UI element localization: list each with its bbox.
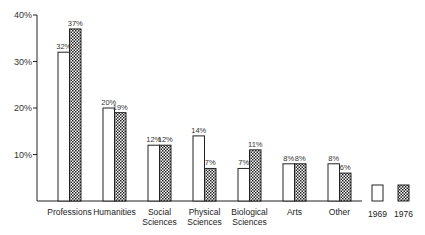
- bar-1969: [103, 108, 115, 201]
- y-tick-label: 40%: [14, 10, 32, 20]
- bar-1976: [70, 29, 82, 201]
- bar-value-label: 11%: [248, 140, 263, 149]
- category-label: Biological: [231, 207, 267, 217]
- category-label: Humanities: [93, 207, 136, 217]
- bar-value-label: 6%: [340, 163, 351, 172]
- bar-1976: [250, 150, 262, 201]
- bar-1976: [115, 113, 127, 201]
- bar-1969: [283, 164, 295, 201]
- legend-swatch-1969: [372, 185, 383, 201]
- bar-1969: [58, 52, 70, 201]
- bar-value-label: 7%: [205, 158, 216, 167]
- legend-label: 1969: [368, 209, 387, 219]
- category-label: Sciences: [142, 217, 177, 227]
- category-label: Social: [148, 207, 171, 217]
- y-tick-label: 30%: [14, 57, 32, 67]
- bar-1976: [160, 145, 172, 201]
- bar-1976: [340, 173, 352, 201]
- bar-1969: [148, 145, 160, 201]
- bar-value-label: 12%: [158, 135, 173, 144]
- legend-swatch-1976: [398, 185, 409, 201]
- bar-1969: [238, 168, 250, 201]
- bar-1969: [328, 164, 340, 201]
- bar-1976: [295, 164, 307, 201]
- bar-1976: [205, 168, 217, 201]
- category-label: Sciences: [187, 217, 222, 227]
- category-label: Professions: [47, 207, 91, 217]
- category-label: Arts: [287, 207, 302, 217]
- bar-value-label: 37%: [68, 19, 83, 28]
- y-tick-label: 10%: [14, 150, 32, 160]
- bar-value-label: 19%: [113, 103, 128, 112]
- bar-value-label: 8%: [328, 154, 339, 163]
- bar-value-label: 7%: [238, 158, 249, 167]
- bar-value-label: 8%: [283, 154, 294, 163]
- bar-value-label: 8%: [295, 154, 306, 163]
- y-tick-label: 20%: [14, 103, 32, 113]
- bars: 32%37%Professions20%19%Humanities12%12%S…: [47, 19, 351, 227]
- category-label: Other: [329, 207, 350, 217]
- legend: 19691976: [368, 185, 413, 219]
- category-label: Sciences: [232, 217, 267, 227]
- bar-chart: 10%20%30%40% 32%37%Professions20%19%Huma…: [0, 0, 425, 235]
- bar-1969: [193, 136, 205, 201]
- legend-label: 1976: [394, 209, 413, 219]
- bar-value-label: 14%: [191, 126, 206, 135]
- category-label: Physical: [189, 207, 221, 217]
